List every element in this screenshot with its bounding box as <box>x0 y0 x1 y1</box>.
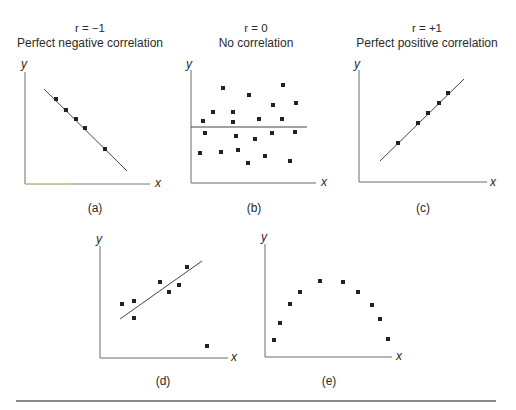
panel-e <box>265 244 392 357</box>
panel-a-y-label: y <box>21 57 27 71</box>
panel-c <box>359 70 487 182</box>
data-points <box>120 265 209 348</box>
panel-c-r-label: r = +1 <box>342 22 512 34</box>
panel-a-r-label: r = −1 <box>5 22 175 34</box>
panel-b-title: No correlation <box>171 36 341 50</box>
panel-e-x-label: x <box>396 349 402 363</box>
panel-b <box>191 70 316 183</box>
bottom-rule <box>16 400 496 402</box>
panel-c-y-label: y <box>354 57 360 71</box>
data-points <box>272 279 390 342</box>
panel-a-title: Perfect negative correlation <box>5 36 175 50</box>
panel-e-y-label: y <box>261 230 267 244</box>
fit-line <box>120 261 202 319</box>
panel-a <box>25 72 150 184</box>
panel-d <box>100 246 228 358</box>
fit-line <box>380 79 464 161</box>
panel-d-x-label: x <box>231 350 237 364</box>
panel-b-y-label: y <box>186 57 192 71</box>
data-points <box>198 83 298 165</box>
panel-d-y-label: y <box>96 232 102 246</box>
panel-b-r-label: r = 0 <box>171 22 341 34</box>
panel-d-caption: (d) <box>143 374 183 388</box>
panel-a-x-label: x <box>155 176 161 190</box>
panel-b-x-label: x <box>321 175 327 189</box>
panel-c-caption: (c) <box>403 201 443 215</box>
panel-c-x-label: x <box>490 175 496 189</box>
panel-a-caption: (a) <box>75 201 115 215</box>
panel-c-title: Perfect positive correlation <box>342 36 512 50</box>
panel-b-caption: (b) <box>234 201 274 215</box>
panel-e-caption: (e) <box>309 374 349 388</box>
